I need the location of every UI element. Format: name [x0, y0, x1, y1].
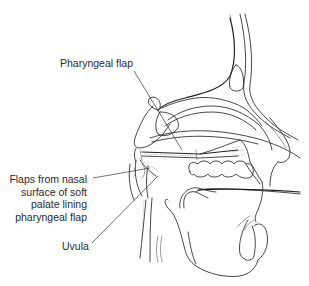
mandible: [165, 199, 258, 276]
tongue: [180, 188, 300, 208]
label-pharyngeal-flap: Pharyngeal flap: [60, 57, 133, 70]
frontal-sinus: [229, 65, 243, 91]
upper-lip: [255, 182, 263, 222]
larynx: [157, 236, 163, 262]
label-line: palate lining: [9, 198, 87, 211]
pharyngeal-flap: [140, 150, 238, 160]
label-line: pharyngeal flap: [9, 211, 87, 224]
label-line: Flaps from nasal: [9, 173, 87, 186]
leader-pharyngeal-flap: [134, 71, 182, 150]
posterior-pharynx: [129, 160, 152, 262]
lower-lip: [238, 216, 268, 260]
leader-flaps-nasal-surface: [93, 168, 150, 178]
frontal-bone-outline: [158, 14, 298, 140]
label-flaps-from-nasal-surface: Flaps from nasal surface of soft palate …: [9, 173, 87, 223]
label-line: surface of soft: [9, 186, 87, 199]
sagittal-head-illustration: [0, 0, 309, 286]
anatomy-diagram: Pharyngeal flap Flaps from nasal surface…: [0, 0, 309, 286]
nose-outline: [266, 118, 290, 186]
leader-uvula: [92, 176, 158, 243]
label-uvula: Uvula: [62, 240, 89, 253]
upper-teeth: [189, 161, 262, 184]
